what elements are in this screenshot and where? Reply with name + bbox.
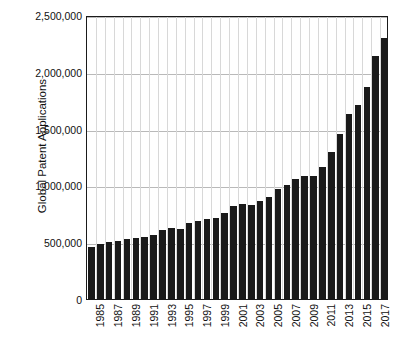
bar (319, 167, 326, 299)
x-tick-label: 2001 (237, 304, 249, 327)
bar (239, 204, 246, 299)
bar (346, 114, 353, 299)
bar (115, 241, 122, 300)
bar (141, 237, 148, 299)
x-axis-tick-labels: 1985198719891991199319951997199920012003… (86, 300, 388, 350)
bar (284, 185, 291, 299)
x-tick-label: 2005 (272, 304, 284, 327)
bar (364, 87, 371, 299)
y-axis-tick-labels: 0500,0001,000,0001,500,0002,000,0002,500… (0, 0, 82, 350)
x-tick-label: 2003 (254, 304, 266, 327)
y-tick-label: 2,500,000 (2, 10, 82, 22)
bar (266, 197, 273, 299)
y-tick-label: 500,000 (2, 237, 82, 249)
x-tick-label: 1987 (112, 304, 124, 327)
bars-series (87, 17, 387, 299)
bar (88, 247, 95, 299)
x-tick-label: 2009 (308, 304, 320, 327)
bar (372, 56, 379, 299)
x-tick-label: 2017 (379, 304, 391, 327)
bar (328, 152, 335, 299)
bar (186, 223, 193, 299)
bar (177, 229, 184, 299)
bar (381, 38, 388, 299)
bar (248, 205, 255, 299)
bar (204, 219, 211, 299)
x-tick-label: 1995 (183, 304, 195, 327)
bar (257, 201, 264, 299)
patent-applications-bar-chart: Global Patent Applications 0500,0001,000… (0, 0, 409, 350)
bar (133, 238, 140, 299)
bar (310, 176, 317, 299)
x-tick-label: 2007 (290, 304, 302, 327)
plot-area (86, 16, 388, 300)
bar (213, 218, 220, 299)
x-tick-label: 1997 (201, 304, 213, 327)
bar (97, 244, 104, 299)
bar (230, 206, 237, 299)
bar (355, 105, 362, 299)
y-tick-label: 2,000,000 (2, 67, 82, 79)
bar (106, 242, 113, 299)
bar (301, 176, 308, 299)
y-tick-label: 1,500,000 (2, 124, 82, 136)
bar (292, 179, 299, 299)
bar (275, 189, 282, 299)
bar (337, 134, 344, 299)
x-tick-label: 1989 (130, 304, 142, 327)
x-tick-label: 1985 (94, 304, 106, 327)
x-tick-label: 2013 (343, 304, 355, 327)
y-tick-label: 0 (2, 294, 82, 306)
x-tick-label: 1993 (166, 304, 178, 327)
bar (221, 213, 228, 299)
bar (124, 239, 131, 299)
x-tick-label: 2011 (325, 304, 337, 327)
bar (150, 235, 157, 299)
x-tick-label: 1999 (219, 304, 231, 327)
bar (159, 230, 166, 299)
x-tick-label: 2015 (361, 304, 373, 327)
y-tick-label: 1,000,000 (2, 180, 82, 192)
bar (168, 228, 175, 299)
bar (195, 221, 202, 299)
x-tick-label: 1991 (148, 304, 160, 327)
